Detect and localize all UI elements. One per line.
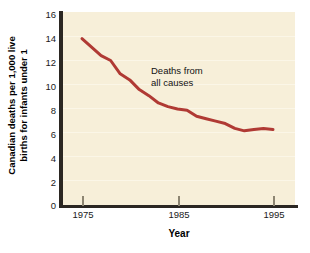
annotation-deaths-from-all-causes: Deaths from all causes [151, 65, 203, 88]
x-tick-mark-1975 [82, 196, 84, 206]
y-axis-title: Canadian deaths per 1,000 live births fo… [0, 0, 34, 210]
x-axis-title: Year [63, 228, 295, 239]
x-tick-mark-1995 [273, 196, 275, 206]
y-axis-title-line-1: Canadian deaths per 1,000 live [6, 36, 18, 174]
plot-area: Deaths from all causes [63, 12, 295, 206]
x-tick-mark-1985 [178, 196, 180, 206]
y-tick-label-0: 0 [34, 201, 56, 211]
x-tick-label-1995: 1995 [251, 210, 297, 220]
y-tick-label-12: 12 [34, 58, 56, 68]
annotation-line-1: Deaths from [151, 65, 203, 77]
infant-mortality-line-chart: Canadian deaths per 1,000 live births fo… [0, 0, 310, 253]
y-tick-label-8: 8 [34, 106, 56, 116]
y-tick-label-6: 6 [34, 130, 56, 140]
y-axis-title-line-2: births for infants under 1 [17, 36, 29, 174]
y-tick-label-4: 4 [34, 154, 56, 164]
y-tick-label-2: 2 [34, 178, 56, 188]
y-tick-label-14: 14 [34, 34, 56, 44]
series-deaths-from-all-causes [63, 12, 295, 206]
annotation-line-2: all causes [151, 77, 203, 89]
y-tick-label-10: 10 [34, 82, 56, 92]
x-tick-label-1975: 1975 [60, 210, 106, 220]
x-tick-label-1985: 1985 [156, 210, 202, 220]
y-axis-spine [59, 11, 63, 207]
y-tick-label-16: 16 [34, 10, 56, 20]
